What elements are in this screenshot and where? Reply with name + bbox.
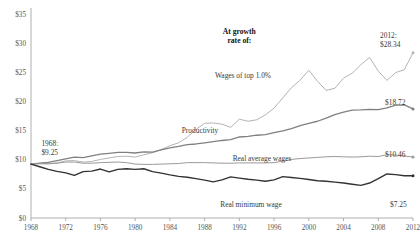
- line-chart: $0$5$10$15$20$25$30$35 19681972197619801…: [0, 0, 420, 247]
- series-line: [31, 105, 413, 164]
- series-inline-labels: Wages of top 1.0%ProductivityReal averag…: [182, 71, 292, 209]
- endpoint-label-3: $10.46: [385, 150, 406, 159]
- x-axis-tick-label: 1980: [128, 224, 143, 232]
- series-line: [31, 53, 413, 164]
- y-axis-tick-label: $25: [15, 69, 26, 77]
- series-label-1: Wages of top 1.0%: [215, 71, 271, 80]
- x-axis-tick-label: 2004: [336, 224, 351, 232]
- y-axis-tick-label: $15: [15, 127, 26, 135]
- series-endpoint-marker: [412, 156, 415, 159]
- x-axis-tick-label: 1976: [93, 224, 108, 232]
- x-axis-tick-label: 1988: [197, 224, 212, 232]
- series-endpoint-marker: [412, 51, 415, 54]
- y-axis-tick-label: $5: [19, 185, 27, 193]
- y-axis-group: $0$5$10$15$20$25$30$35: [15, 8, 31, 223]
- y-axis-tick-label: $20: [15, 98, 26, 106]
- x-axis-tick-label: 1984: [163, 224, 178, 232]
- endpoint-label-4: $7.25: [390, 200, 407, 209]
- endpoint-value-labels: 2012:$28.34$18.72$10.46$7.25: [380, 31, 407, 209]
- series-label-2: Productivity: [182, 126, 219, 135]
- series-endpoint-marker: [412, 107, 415, 110]
- x-axis-tick-label: 1992: [232, 224, 247, 232]
- endpoint-label-1: 2012:$28.34: [380, 31, 401, 49]
- endpoint-markers-group: [412, 51, 415, 177]
- x-axis-tick-label: 1996: [267, 224, 282, 232]
- series-label-3: Real average wages: [233, 154, 292, 163]
- x-axis-tick-label: 2008: [371, 224, 386, 232]
- x-axis-tick-label: 2000: [302, 224, 317, 232]
- y-axis-tick-label: $0: [19, 215, 27, 223]
- chart-annotations: At growthrate of:1968:$9.25: [41, 27, 256, 156]
- series-line: [31, 164, 413, 185]
- endpoint-label-2: $18.72: [385, 98, 406, 107]
- x-axis-tick-label: 1968: [24, 224, 39, 232]
- y-axis-ticks: $0$5$10$15$20$25$30$35: [15, 11, 26, 223]
- growth-rate-note: At growthrate of:: [223, 27, 257, 45]
- x-axis-tick-label: 1972: [59, 224, 74, 232]
- start-value-annotation: 1968:$9.25: [41, 139, 58, 157]
- x-axis-ticks: 1968197219761980198419881992199620002004…: [24, 218, 420, 232]
- series-label-4: Real minimum wage: [220, 200, 282, 209]
- y-axis-tick-label: $10: [15, 156, 26, 164]
- x-axis-tick-label: 2012: [406, 224, 420, 232]
- chart-container: $0$5$10$15$20$25$30$35 19681972197619801…: [0, 0, 420, 247]
- y-axis-tick-label: $30: [15, 40, 26, 48]
- series-endpoint-marker: [412, 174, 415, 177]
- x-axis-group: 1968197219761980198419881992199620002004…: [24, 218, 420, 232]
- y-axis-tick-label: $35: [15, 11, 26, 19]
